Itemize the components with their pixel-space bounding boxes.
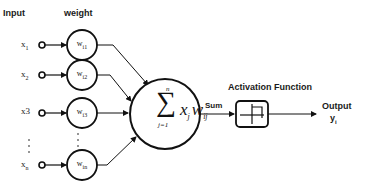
sum-label: Sum	[205, 101, 222, 110]
ellipsis-dots	[28, 133, 79, 153]
output-label: Output	[322, 101, 352, 111]
weight-header: weight	[64, 8, 93, 18]
weight-label-1: wi1	[67, 39, 97, 50]
weight-label-3: wi3	[67, 107, 97, 118]
input-node-icon	[39, 72, 45, 78]
activation-label: Activation Function	[228, 82, 312, 92]
input-label-n: xn	[21, 159, 29, 171]
neuron-diagram: Input weight x1 x2 x3 xn wi1 wi2 wi3 win…	[0, 0, 372, 191]
sum-lower-limit: j=1	[158, 121, 168, 129]
sum-term: xjwij	[180, 100, 208, 121]
connection-arrow-icon	[97, 137, 136, 165]
input-row-2	[39, 60, 131, 101]
output-variable: yi	[330, 113, 337, 125]
input-label-2: x2	[21, 69, 29, 81]
sigma-icon: ∑	[156, 88, 176, 116]
input-node-icon	[39, 162, 45, 168]
connection-arrow-icon	[97, 45, 148, 85]
input-node-icon	[39, 42, 45, 48]
diagram-graphics	[0, 0, 372, 191]
input-label-3: x3	[21, 106, 30, 116]
connection-arrow-icon	[97, 75, 131, 101]
weight-label-n: win	[67, 159, 97, 170]
input-header: Input	[3, 8, 25, 18]
weight-label-2: wi2	[67, 69, 97, 80]
input-node-icon	[39, 110, 45, 116]
input-label-1: x1	[21, 39, 29, 51]
